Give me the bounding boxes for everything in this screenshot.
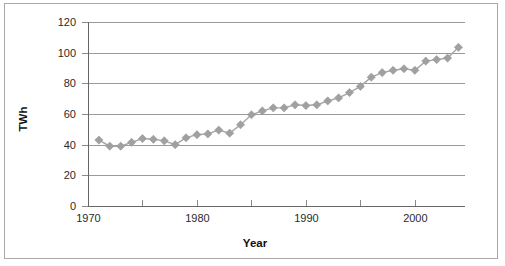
data-point-marker [95, 136, 103, 144]
line-chart: 020406080100120 1970198019902000 TWh Yea… [5, 4, 499, 260]
y-tick-labels-group: 020406080100120 [58, 16, 88, 212]
y-tick-label: 120 [58, 16, 76, 28]
x-tick-labels-group: 1970198019902000 [76, 212, 427, 224]
data-point-marker [302, 101, 310, 109]
x-tick-label: 1990 [294, 212, 318, 224]
chart-svg: 020406080100120 1970198019902000 TWh Yea… [5, 4, 499, 260]
x-tickmarks-group [89, 200, 416, 206]
x-axis-title: Year [243, 237, 268, 249]
data-point-marker [280, 104, 288, 112]
data-point-marker [160, 137, 168, 145]
data-point-marker [313, 101, 321, 109]
data-point-marker [204, 130, 212, 138]
data-point-marker [171, 141, 179, 149]
y-axis-title: TWh [17, 107, 29, 132]
data-point-marker [345, 88, 353, 96]
data-point-marker [400, 65, 408, 73]
data-point-marker [117, 142, 125, 150]
data-point-marker [182, 134, 190, 142]
series-line [99, 47, 459, 146]
data-point-marker [106, 142, 114, 150]
y-tick-label: 100 [58, 47, 76, 59]
gridlines-group [88, 23, 465, 207]
data-point-marker [389, 66, 397, 74]
series-line-group [99, 47, 459, 146]
y-tick-label: 0 [70, 200, 76, 212]
data-markers-group [95, 43, 463, 150]
x-tick-label: 1980 [185, 212, 209, 224]
chart-frame: 020406080100120 1970198019902000 TWh Yea… [4, 3, 498, 259]
y-tick-label: 80 [64, 77, 76, 89]
data-point-marker [193, 131, 201, 139]
data-point-marker [269, 104, 277, 112]
data-point-marker [258, 107, 266, 115]
data-point-marker [138, 134, 146, 142]
data-point-marker [335, 94, 343, 102]
data-point-marker [149, 135, 157, 143]
data-point-marker [324, 97, 332, 105]
y-tick-label: 40 [64, 139, 76, 151]
y-tick-label: 60 [64, 108, 76, 120]
data-point-marker [291, 101, 299, 109]
x-tick-label: 2000 [403, 212, 427, 224]
data-point-marker [433, 55, 441, 63]
x-tick-label: 1970 [76, 212, 100, 224]
data-point-marker [378, 69, 386, 77]
data-point-marker [215, 126, 223, 134]
y-tick-label: 20 [64, 169, 76, 181]
